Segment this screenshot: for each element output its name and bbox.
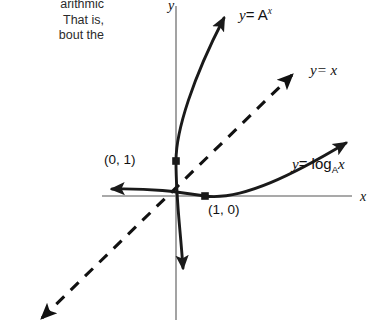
point-marker-1-0: [201, 192, 209, 200]
log-label-eq: = log: [299, 155, 332, 172]
exponential-curve-label: y= Ax: [239, 6, 272, 24]
point-label-1-0: (1, 0): [208, 202, 240, 217]
identity-label-eq: = x: [317, 62, 338, 78]
exponential-curve: [176, 18, 224, 268]
y-axis-label: y: [168, 0, 174, 14]
logarithmic-curve-label: y= logAx: [292, 155, 345, 175]
x-axis-label: x: [360, 189, 366, 205]
identity-line-label: y= x: [310, 61, 337, 79]
identity-label-y: y: [310, 62, 317, 78]
point-label-0-1: (0, 1): [104, 152, 136, 167]
point-marker-0-1: [172, 157, 180, 165]
log-label-arg: x: [338, 156, 345, 172]
log-label-y: y: [292, 156, 299, 172]
exponential-label-exponent: x: [268, 6, 272, 16]
exponential-label-eq: = A: [246, 6, 268, 23]
exponential-label-y: y: [239, 7, 246, 23]
function-graph-figure: arithmic That is, bout the y x y= Ax y= …: [0, 0, 381, 336]
